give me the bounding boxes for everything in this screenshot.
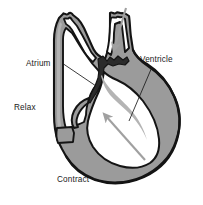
heart-cross-section-illustration: Atrium Ventricle Relax Contract [0, 0, 203, 205]
label-ventricle: Ventricle [140, 55, 173, 64]
label-atrium: Atrium [26, 59, 51, 68]
label-contract: Contract [57, 175, 90, 184]
heart-diagram-figure: Atrium Ventricle Relax Contract [0, 0, 203, 205]
atrium-base-stub [56, 127, 74, 143]
label-relax: Relax [14, 103, 36, 112]
